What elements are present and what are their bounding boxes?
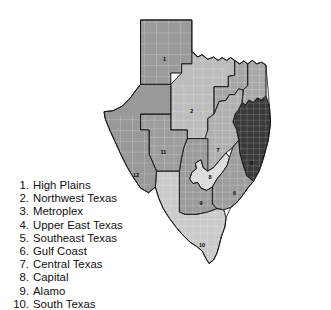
region-legend: 1. High Plains 2. Northwest Texas 3. Met… — [12, 179, 182, 310]
legend-item-label: Northwest Texas — [33, 192, 117, 205]
legend-item-number: 3. — [12, 205, 29, 218]
legend-item-label: Central Texas — [33, 258, 102, 271]
legend-item-label: Southeast Texas — [33, 232, 117, 245]
legend-item-number: 5. — [12, 232, 29, 245]
legend-item: 8. Capital — [12, 271, 182, 284]
legend-item-number: 4. — [12, 219, 29, 232]
region-label-10: 10 — [199, 242, 205, 248]
legend-item: 9. Alamo — [12, 285, 182, 298]
legend-item-label: Alamo — [33, 285, 65, 298]
legend-item-label: South Texas — [33, 298, 95, 310]
region-label-2: 2 — [190, 108, 193, 114]
legend-item-label: High Plains — [33, 179, 91, 192]
legend-item: 6. Gulf Coast — [12, 245, 182, 258]
legend-item-number: 6. — [12, 245, 29, 258]
legend-item: 3. Metroplex — [12, 205, 182, 218]
legend-item-label: Gulf Coast — [33, 245, 87, 258]
legend-item: 7. Central Texas — [12, 258, 182, 271]
legend-item-number: 10. — [12, 298, 29, 310]
legend-item-number: 7. — [12, 258, 29, 271]
region-label-1: 1 — [163, 56, 166, 62]
legend-item: 2. Northwest Texas — [12, 192, 182, 205]
legend-item: 1. High Plains — [12, 179, 182, 192]
texas-regions-figure: 1 2 3 4 — [0, 0, 331, 310]
legend-item-number: 9. — [12, 285, 29, 298]
legend-item-number: 1. — [12, 179, 29, 192]
region-label-6: 6 — [233, 190, 236, 196]
legend-item-number: 8. — [12, 271, 29, 284]
legend-item-label: Capital — [33, 271, 68, 284]
region-label-12: 12 — [133, 172, 139, 178]
legend-item-number: 2. — [12, 192, 29, 205]
legend-item-label: Metroplex — [33, 205, 83, 218]
legend-item-label: Upper East Texas — [33, 219, 123, 232]
region-label-7: 7 — [217, 147, 220, 153]
region-label-11: 11 — [160, 149, 166, 155]
legend-item: 10. South Texas — [12, 298, 182, 310]
legend-item: 4. Upper East Texas — [12, 219, 182, 232]
legend-item: 5. Southeast Texas — [12, 232, 182, 245]
region-label-9: 9 — [199, 200, 202, 206]
region-label-5: 5 — [250, 160, 253, 166]
region-label-8: 8 — [209, 174, 212, 180]
